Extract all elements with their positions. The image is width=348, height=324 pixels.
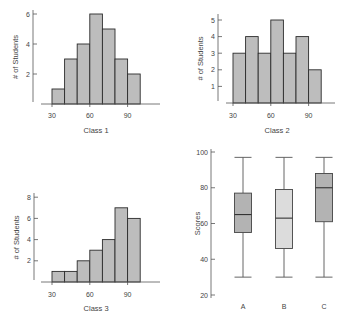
histogram-bar — [52, 271, 65, 282]
figure-canvas: 246306090Class 1# of Students12345306090… — [0, 0, 348, 324]
y-tick-label: 2 — [211, 66, 215, 73]
histogram-bar — [77, 44, 90, 104]
x-tick-label: 90 — [305, 112, 313, 119]
histogram-bar — [296, 37, 309, 103]
y-axis-title: # of Students — [11, 35, 20, 79]
iqr-box — [316, 173, 333, 221]
category-label: B — [282, 303, 287, 310]
histogram-bar — [271, 20, 284, 103]
y-tick-label: 4 — [26, 41, 30, 48]
histogram-bar — [52, 89, 65, 104]
box-b: B — [276, 157, 293, 310]
iqr-box — [276, 190, 293, 249]
histogram-bar — [115, 59, 128, 104]
histogram-bar — [90, 250, 103, 282]
histogram-bar — [283, 53, 296, 103]
category-label: A — [241, 303, 246, 310]
x-tick-label: 30 — [48, 291, 56, 298]
histogram-bar — [246, 37, 259, 103]
x-tick-label: 60 — [267, 112, 275, 119]
histogram-2: 12345306090Class 2# of Students — [196, 14, 335, 135]
histogram-bar — [128, 74, 141, 104]
histogram-bar — [102, 240, 115, 282]
y-tick-label: 2 — [27, 257, 31, 264]
x-axis-title: Class 1 — [84, 126, 109, 135]
y-tick-label: 20 — [200, 292, 208, 299]
histogram-3: 2468306090Class 3# of Students — [12, 193, 160, 313]
y-tick-label: 8 — [27, 194, 31, 201]
histogram-bar — [77, 261, 90, 282]
x-tick-label: 30 — [229, 112, 237, 119]
y-tick-label: 4 — [211, 33, 215, 40]
histogram-bar — [128, 218, 141, 282]
iqr-box — [235, 193, 252, 232]
histogram-bar — [65, 59, 78, 104]
x-tick-label: 90 — [124, 291, 132, 298]
y-tick-label: 40 — [200, 256, 208, 263]
histogram-bar — [102, 29, 115, 104]
x-tick-label: 30 — [48, 112, 56, 119]
x-tick-label: 60 — [86, 112, 94, 119]
y-tick-label: 6 — [26, 11, 30, 18]
y-tick-label: 80 — [200, 184, 208, 191]
y-tick-label: 4 — [27, 236, 31, 243]
category-label: C — [321, 303, 326, 310]
y-axis-title: Scores — [193, 212, 202, 236]
y-tick-label: 2 — [26, 71, 30, 78]
y-tick-label: 1 — [211, 83, 215, 90]
boxplot: 20406080100ABCScores — [193, 149, 333, 311]
y-axis-title: # of Students — [196, 36, 205, 80]
x-axis-title: Class 3 — [84, 304, 109, 313]
y-axis-title: # of Students — [12, 215, 21, 259]
x-tick-label: 90 — [124, 112, 132, 119]
y-tick-label: 5 — [211, 17, 215, 24]
histogram-bar — [90, 14, 103, 104]
x-tick-label: 60 — [86, 291, 94, 298]
y-tick-label: 100 — [196, 149, 208, 156]
histogram-1: 246306090Class 1# of Students — [11, 10, 160, 135]
y-tick-label: 3 — [211, 50, 215, 57]
histogram-bar — [258, 53, 271, 103]
histogram-bar — [233, 53, 246, 103]
histogram-bar — [65, 271, 78, 282]
y-tick-label: 6 — [27, 215, 31, 222]
histogram-bar — [115, 208, 128, 282]
box-c: C — [316, 157, 333, 310]
x-axis-title: Class 2 — [265, 126, 290, 135]
histogram-bar — [309, 70, 322, 103]
box-a: A — [235, 157, 252, 310]
